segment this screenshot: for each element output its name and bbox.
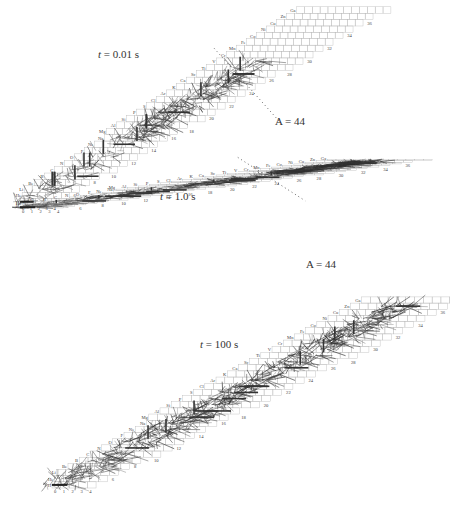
flow-lines bbox=[12, 157, 395, 208]
flow-lines bbox=[42, 295, 428, 491]
neutron-number-label: 3 bbox=[48, 209, 51, 214]
element-label: Ar bbox=[210, 378, 215, 383]
nuclide-grid bbox=[20, 159, 432, 208]
reaction-network-chart: HHeLiBeBCNOFNeNaMgAlSiPSClArKCaScTiVCrMn… bbox=[0, 150, 450, 310]
neutron-number-label: 1 bbox=[31, 209, 34, 214]
element-label: Zn bbox=[344, 304, 350, 309]
element-label: B bbox=[75, 458, 78, 463]
element-label: C bbox=[54, 195, 57, 200]
reaction-network-chart: HHeLiBeBCNOFNeNaMgAlSiPSClArKCaScTiVCrMn… bbox=[0, 0, 450, 175]
element-label: Ca bbox=[199, 173, 204, 178]
element-label: Li bbox=[20, 200, 25, 205]
neutron-number-label: 6 bbox=[79, 206, 82, 211]
neutron-number-label: 36 bbox=[406, 163, 411, 168]
element-label: Al bbox=[154, 409, 159, 414]
element-label: Ti bbox=[222, 170, 227, 175]
neutron-number-label: 30 bbox=[373, 347, 378, 352]
element-label: Cr bbox=[221, 53, 226, 58]
neutron-number-label: 3 bbox=[80, 489, 83, 494]
neutron-number-label: 34 bbox=[347, 33, 352, 38]
neutron-number-label: 16 bbox=[221, 421, 226, 426]
neutron-number-label: 34 bbox=[383, 167, 388, 172]
neutron-number-label: 36 bbox=[367, 21, 372, 26]
element-label: Ni bbox=[261, 27, 266, 32]
neutron-number-label: 28 bbox=[351, 360, 356, 365]
element-label: F bbox=[88, 190, 91, 195]
element-label: V bbox=[212, 59, 216, 64]
time-label: t = 0.01 s bbox=[98, 48, 139, 60]
neutron-number-label: 36 bbox=[441, 310, 446, 315]
neutron-number-label: 22 bbox=[229, 104, 234, 109]
element-label: Be bbox=[62, 464, 67, 469]
element-label: Ni bbox=[322, 316, 327, 321]
reaction-network-chart: HHeLiBeBCNOFNeNaMgAlSiPSClArKCaScTiVCrMn… bbox=[0, 290, 450, 516]
element-label: Ca bbox=[180, 78, 185, 83]
element-label: Fe bbox=[266, 163, 271, 168]
element-label: Ga bbox=[355, 298, 360, 303]
neutron-number-label: 16 bbox=[171, 136, 176, 141]
element-label: Ni bbox=[288, 160, 293, 165]
time-label: t = 1.0 s bbox=[160, 190, 196, 202]
element-label: Co bbox=[276, 162, 282, 167]
element-label: Fe bbox=[300, 329, 305, 334]
neutron-number-label: 6 bbox=[112, 477, 115, 482]
element-label: N bbox=[65, 193, 69, 198]
element-label: O bbox=[108, 440, 112, 445]
neutron-number-label: 24 bbox=[249, 91, 254, 96]
element-label: Sc bbox=[210, 171, 215, 176]
neutron-number-label: 18 bbox=[189, 129, 194, 134]
panel-t-100s: HHeLiBeBCNOFNeNaMgAlSiPSClArKCaScTiVCrMn… bbox=[0, 290, 450, 516]
element-label: P bbox=[133, 110, 136, 115]
neutron-number-label: 10 bbox=[154, 458, 159, 463]
element-label: K bbox=[223, 372, 227, 377]
neutron-number-label: 30 bbox=[307, 59, 312, 64]
neutron-number-label: 2 bbox=[39, 209, 42, 214]
neutron-number-label: 26 bbox=[297, 178, 302, 183]
element-label: Sc bbox=[244, 360, 249, 365]
neutron-number-label: 20 bbox=[230, 187, 235, 192]
neutron-number-label: 1 bbox=[63, 489, 66, 494]
neutron-number-label: 22 bbox=[286, 390, 291, 395]
neutron-number-label: 26 bbox=[331, 366, 336, 371]
element-label: He bbox=[48, 477, 53, 482]
element-label: Cr bbox=[244, 167, 249, 172]
neutron-number-label: 0 bbox=[22, 209, 25, 214]
element-label: O bbox=[76, 192, 80, 197]
element-label: Cu bbox=[299, 159, 305, 164]
neutron-number-label: 32 bbox=[396, 335, 401, 340]
neutron-number-label: 12 bbox=[176, 446, 181, 451]
neutron-number-label: 12 bbox=[144, 198, 149, 203]
element-label: Ca bbox=[232, 366, 237, 371]
mass-line-label: A = 44 bbox=[306, 258, 336, 270]
neutron-number-label: 10 bbox=[121, 201, 126, 206]
element-label: C bbox=[86, 452, 89, 457]
element-label: Si bbox=[133, 182, 138, 187]
neutron-number-label: 24 bbox=[275, 181, 280, 186]
element-label: S bbox=[190, 390, 193, 395]
element-label: Ne bbox=[88, 142, 93, 147]
neutron-number-label: 2 bbox=[72, 489, 75, 494]
element-label: B bbox=[43, 197, 46, 202]
element-label: Mg bbox=[141, 415, 148, 420]
neutron-number-label: 28 bbox=[287, 72, 292, 77]
neutron-number-label: 20 bbox=[264, 403, 269, 408]
panel-t-1-0s: HHeLiBeBCNOFNeNaMgAlSiPSClArKCaScTiVCrMn… bbox=[0, 150, 450, 310]
neutron-number-label: 4 bbox=[89, 489, 92, 494]
element-label: Si bbox=[166, 403, 171, 408]
element-label: Sc bbox=[191, 72, 196, 77]
neutron-number-label: 30 bbox=[339, 173, 344, 178]
element-label: Be bbox=[30, 198, 35, 203]
element-label: Ar bbox=[177, 176, 182, 181]
neutron-number-label: 18 bbox=[208, 190, 213, 195]
element-label: Cr bbox=[278, 341, 283, 346]
element-label: P bbox=[179, 397, 182, 402]
element-label: P bbox=[146, 181, 149, 186]
element-label: Cu bbox=[270, 21, 276, 26]
element-label: Mn bbox=[229, 46, 236, 51]
element-label: Mn bbox=[253, 165, 260, 170]
element-label: Ne bbox=[129, 427, 134, 432]
panel-t-0-01s: HHeLiBeBCNOFNeNaMgAlSiPSClArKCaScTiVCrMn… bbox=[0, 0, 450, 175]
time-label: t = 100 s bbox=[200, 338, 238, 350]
element-label: Ga bbox=[321, 156, 326, 161]
element-label: Co bbox=[310, 323, 316, 328]
